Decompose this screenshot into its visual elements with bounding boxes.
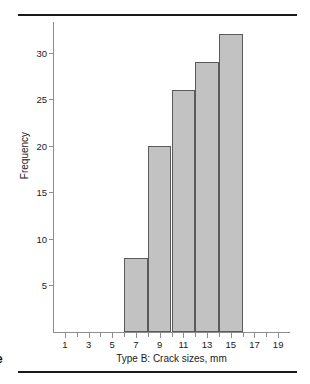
x-axis-tick [112,333,113,338]
histogram-bar [172,90,196,332]
x-axis-tick-label: 3 [86,339,91,350]
histogram-chart: 51015202530 135791113151719 Frequency Ty… [0,0,310,384]
y-axis-tick-label: 30 [36,47,47,58]
x-axis-tick-label: 19 [273,339,284,350]
x-axis-tick-label: 17 [249,339,260,350]
x-axis-tick [65,333,66,338]
x-axis-tick [219,333,220,337]
x-axis-tick-label: 9 [157,339,162,350]
y-axis-tick [49,192,53,193]
x-axis-tick [124,333,125,337]
y-axis-tick [49,99,53,100]
x-axis-tick [172,333,173,337]
x-axis-tick-label: 15 [225,339,236,350]
x-axis-tick [77,333,78,337]
y-axis-tick [49,146,53,147]
x-axis-tick-label: 11 [178,339,188,350]
histogram-bar [124,258,148,332]
x-axis-tick [243,333,244,337]
x-axis-tick [195,333,196,337]
y-axis-tick [49,53,53,54]
y-axis-title: Frequency [19,96,30,216]
x-axis-tick-label: 13 [202,339,213,350]
x-axis-tick [136,333,137,338]
x-axis-tick-label: 5 [110,339,115,350]
x-axis-tick [148,333,149,337]
x-axis-tick [278,333,279,338]
y-axis-tick-label: 20 [36,140,47,151]
histogram-bar [148,146,172,332]
y-axis-tick-label: 25 [36,94,47,105]
y-axis-tick-label: 5 [42,280,47,291]
x-axis-tick [231,333,232,338]
x-axis-tick [100,333,101,337]
x-axis-tick [160,333,161,338]
y-axis-tick [49,239,53,240]
x-axis-tick [207,333,208,338]
x-axis-tick-label: 1 [62,339,67,350]
y-axis-tick [49,285,53,286]
x-axis-tick [266,333,267,337]
x-axis-title: Type B: Crack sizes, mm [53,353,290,364]
histogram-bar [219,34,243,332]
x-axis-tick [183,333,184,338]
y-axis-tick-label: 10 [36,233,47,244]
y-axis-line [53,22,54,332]
x-axis-tick-label: 7 [133,339,138,350]
x-axis-tick [89,333,90,338]
x-axis-tick [254,333,255,338]
y-axis-tick-label: 15 [36,187,47,198]
histogram-bar [195,62,219,332]
